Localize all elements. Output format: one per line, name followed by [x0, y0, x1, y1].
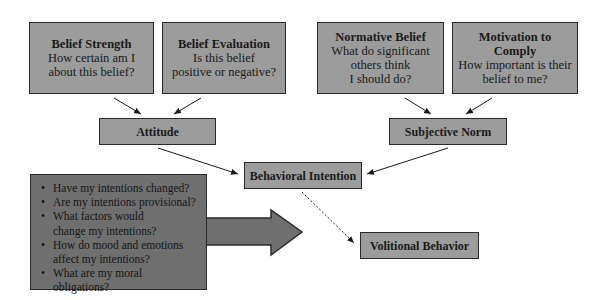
arrow-strength-to-attitude — [114, 98, 141, 114]
motivation-line: belief to me? — [482, 72, 547, 86]
arrow-normative-to-norm — [405, 98, 431, 114]
dashed-arrow-intention-to-behavior — [302, 192, 354, 243]
belief-evaluation-line: Is this belief — [193, 51, 255, 65]
belief-evaluation-title: Belief Evaluation — [178, 37, 270, 51]
subjective-norm-box: Subjective Norm — [389, 118, 507, 145]
belief-evaluation-line: positive or negative? — [172, 65, 276, 79]
belief-evaluation-box: Belief Evaluation Is this belief positiv… — [162, 22, 286, 94]
normative-belief-box: Normative Belief What do significant oth… — [317, 22, 444, 94]
motivation-title: Motivation to — [479, 30, 552, 44]
normative-belief-title: Normative Belief — [335, 30, 426, 44]
list-item: Are my intentions provisional? — [41, 195, 200, 209]
belief-strength-line: How certain am I — [48, 51, 135, 65]
list-item: What factors would change my intentions? — [41, 209, 173, 237]
arrow-motivation-to-norm — [466, 98, 492, 114]
list-item: Have my intentions changed? — [41, 181, 200, 195]
volitional-behavior-label: Volitional Behavior — [370, 239, 469, 253]
normative-belief-line: others think — [351, 58, 410, 72]
arrow-evaluation-to-attitude — [174, 98, 201, 114]
attitude-box: Attitude — [99, 118, 216, 145]
normative-belief-line: I should do? — [350, 72, 412, 86]
subjective-norm-label: Subjective Norm — [405, 125, 491, 139]
reflection-questions-box: Have my intentions changed? Are my inten… — [30, 174, 207, 290]
normative-belief-line: What do significant — [331, 44, 430, 58]
belief-strength-title: Belief Strength — [52, 37, 132, 51]
attitude-label: Attitude — [136, 125, 179, 139]
big-arrow-shape — [200, 210, 302, 255]
list-item: How do mood and emotions affect my inten… — [41, 238, 198, 266]
belief-strength-line: about this belief? — [48, 65, 134, 79]
behavioral-intention-label: Behavioral Intention — [250, 169, 356, 183]
belief-strength-box: Belief Strength How certain am I about t… — [29, 22, 154, 94]
arrow-norm-to-intention — [367, 148, 448, 174]
motivation-line: How important is their — [458, 58, 572, 72]
list-item: What are my moral obligations? — [41, 266, 200, 294]
arrow-attitude-to-intention — [158, 148, 238, 174]
motivation-to-comply-box: Motivation to Comply How important is th… — [452, 22, 578, 94]
volitional-behavior-box: Volitional Behavior — [360, 232, 479, 259]
behavioral-intention-box: Behavioral Intention — [244, 162, 362, 189]
reflection-questions-list: Have my intentions changed? Are my inten… — [41, 181, 200, 295]
motivation-title: Comply — [494, 44, 536, 58]
